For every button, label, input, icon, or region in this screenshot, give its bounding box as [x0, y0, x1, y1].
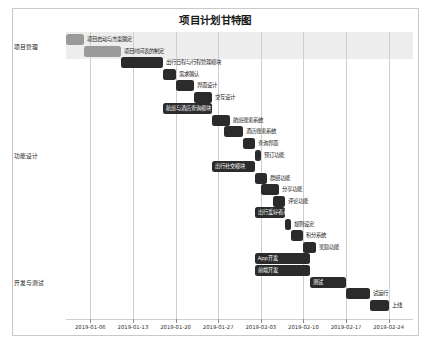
gantt-bar-label: 航班搜索系统: [233, 115, 263, 126]
gantt-bar-label: 测试: [313, 277, 323, 288]
x-tick-mark: [389, 319, 390, 323]
gantt-bar-label: 需求确认: [179, 69, 199, 80]
gantt-bar-label: 奖励功能: [319, 242, 339, 253]
gantt-bar[interactable]: [212, 115, 230, 126]
x-axis-ticks: 2019-01-062019-01-132019-01-202019-01-27…: [66, 319, 413, 341]
x-tick-label: 2019-02-17: [331, 324, 362, 330]
x-tick-label: 2019-02-24: [373, 324, 404, 330]
gantt-bar-label: 预订功能: [264, 150, 284, 161]
gantt-bar[interactable]: [66, 34, 84, 45]
x-tick-mark: [346, 319, 347, 323]
category-label: 项目管理: [14, 42, 38, 51]
gantt-bar-label: 界面设计: [197, 80, 217, 91]
category-label: 开发与测试: [14, 278, 44, 287]
x-tick-label: 2019-01-13: [118, 324, 149, 330]
x-tick-label: 2019-01-27: [203, 324, 234, 330]
gantt-bar-label: 积分系统: [306, 230, 326, 241]
gantt-bar-label: 查询界面: [258, 138, 278, 149]
gantt-bar-label: 群组功能: [270, 173, 290, 184]
gantt-bar[interactable]: [273, 196, 285, 207]
gantt-bar[interactable]: [303, 242, 315, 253]
gantt-bar-label: 分享功能: [282, 184, 302, 195]
x-tick-mark: [303, 319, 304, 323]
gantt-bar-label: 出行爱好者系统: [258, 207, 293, 218]
gantt-bar-label: 规则设定: [294, 219, 314, 230]
x-tick-label: 2019-01-06: [75, 324, 106, 330]
x-tick-mark: [176, 319, 177, 323]
gantt-bar-label: 项目时间表的制定: [124, 46, 164, 57]
gantt-bar[interactable]: [176, 80, 194, 91]
gantt-bar-label: 酒店搜索系统: [246, 126, 276, 137]
gantt-bar[interactable]: [291, 230, 303, 241]
plot-area: 项目启动与方案确定项目时间表的制定出行日程与行程管理模块需求确认界面设计交互设计…: [66, 34, 413, 319]
gantt-bar[interactable]: [163, 69, 175, 80]
gantt-bar-label: 上线: [392, 300, 402, 311]
grid-line: [389, 32, 390, 321]
gantt-bar-label: 评论功能: [288, 196, 308, 207]
grid-line: [133, 32, 134, 321]
gantt-bar[interactable]: [121, 57, 164, 68]
gantt-bar[interactable]: [84, 46, 121, 57]
gantt-bar-label: 航班与酒店查询模块: [166, 103, 211, 114]
grid-line: [218, 32, 219, 321]
x-tick-mark: [261, 319, 262, 323]
gantt-bar-label: App开发: [258, 253, 278, 264]
gantt-bar[interactable]: [224, 126, 242, 137]
x-tick-mark: [218, 319, 219, 323]
gantt-chart: 项目计划甘特图 项目启动与方案确定项目时间表的制定出行日程与行程管理模块需求确认…: [0, 0, 431, 351]
grid-line: [346, 32, 347, 321]
gantt-bar-label: 交互设计: [215, 92, 235, 103]
x-tick-mark: [90, 319, 91, 323]
x-tick-label: 2019-02-10: [288, 324, 319, 330]
x-tick-label: 2019-01-20: [160, 324, 191, 330]
x-tick-label: 2019-02-03: [245, 324, 276, 330]
gantt-bar[interactable]: [285, 219, 291, 230]
gantt-bar[interactable]: [255, 150, 261, 161]
gantt-bar[interactable]: [243, 138, 255, 149]
category-label: 功能设计: [14, 151, 38, 160]
gantt-bar[interactable]: [346, 288, 370, 299]
gantt-bar[interactable]: [255, 173, 267, 184]
gantt-bar[interactable]: [370, 300, 388, 311]
grid-line: [303, 32, 304, 321]
gantt-bar[interactable]: [194, 92, 212, 103]
grid-line: [90, 32, 91, 321]
grid-line: [176, 32, 177, 321]
gantt-bar-label: 出行日程与行程管理模块: [166, 57, 221, 68]
gantt-bar-label: 试运行: [373, 288, 388, 299]
gantt-bar-label: 出行社交模块: [215, 161, 245, 172]
gantt-bar-label: 前端开发: [258, 265, 278, 276]
gantt-bar[interactable]: [261, 184, 279, 195]
chart-title: 项目计划甘特图: [0, 12, 431, 27]
gantt-bar-label: 项目启动与方案确定: [87, 34, 132, 45]
x-tick-mark: [133, 319, 134, 323]
